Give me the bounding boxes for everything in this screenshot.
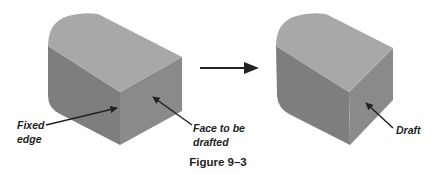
draft-label: Draft <box>396 124 421 136</box>
face-to-be-drafted-label-line2: drafted <box>193 136 229 148</box>
arrow-right-icon <box>200 62 259 74</box>
face-to-be-drafted-label-line1: Face to be <box>193 122 245 134</box>
figure-canvas: Fixed edge Face to be drafted Draft Figu… <box>0 0 437 175</box>
figure-caption: Figure 9–3 <box>189 156 247 168</box>
left-part-original: Fixed edge Face to be drafted <box>17 13 245 148</box>
right-part-drafted: Draft <box>276 13 421 145</box>
fixed-edge-label-line1: Fixed <box>17 119 45 131</box>
fixed-edge-label-line2: edge <box>17 133 42 145</box>
